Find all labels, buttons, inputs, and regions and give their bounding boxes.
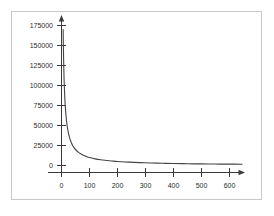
y-tick-label-50000: 50000 [34,122,54,129]
decay-curve-line [63,30,242,165]
y-tick-label-75000: 75000 [34,102,54,109]
x-tick-label-500: 500 [196,182,208,189]
x-axis-group: 0 100 200 300 400 500 600 [48,168,245,189]
y-tick-label-175000: 175000 [30,22,53,29]
x-tick-label-200: 200 [112,182,124,189]
y-tick-label-25000: 25000 [34,142,54,149]
decay-curve-plot: 0 25000 50000 75000 100000 125000 150000… [0,0,274,216]
chart-figure: 0 25000 50000 75000 100000 125000 150000… [0,0,274,216]
y-tick-label-0: 0 [49,162,53,169]
x-tick-label-400: 400 [168,182,180,189]
y-axis-arrow-icon [59,15,64,22]
y-axis-group: 0 25000 50000 75000 100000 125000 150000… [30,15,66,173]
y-tick-labels: 0 25000 50000 75000 100000 125000 150000… [30,22,53,169]
x-tick-labels: 0 100 200 300 400 500 600 [60,182,236,189]
x-axis-arrow-icon [239,170,246,175]
y-tick-label-150000: 150000 [30,42,53,49]
x-tick-label-300: 300 [140,182,152,189]
x-tick-label-600: 600 [224,182,236,189]
x-tick-label-100: 100 [84,182,96,189]
x-tick-label-0: 0 [60,182,64,189]
y-tick-label-100000: 100000 [30,82,53,89]
y-tick-label-125000: 125000 [30,62,53,69]
